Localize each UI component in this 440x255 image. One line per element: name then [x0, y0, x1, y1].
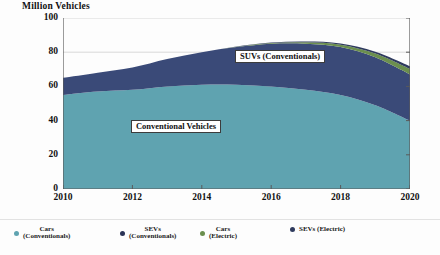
area-series-0 — [63, 84, 410, 189]
y-axis-tick-labels: 100806040200 — [14, 18, 58, 189]
stacked-area-plot — [63, 18, 410, 189]
y-tick-40: 40 — [49, 116, 59, 126]
x-tick-2010: 2010 — [54, 192, 73, 202]
x-axis-tick-labels: 201020122014201620182020 — [63, 192, 410, 208]
y-tick-80: 80 — [49, 47, 59, 57]
chart-legend: Cars (Conventionals)SEVs (Conventionals)… — [0, 224, 440, 250]
y-tick-100: 100 — [44, 13, 58, 23]
legend-item-1[interactable]: SEVs (Conventionals) — [120, 226, 176, 241]
annotation-conventional-vehicles: Conventional Vehicles — [131, 120, 221, 133]
x-tick-2014: 2014 — [192, 192, 211, 202]
legend-item-0[interactable]: Cars (Conventionals) — [14, 226, 70, 241]
legend-item-3[interactable]: SEVs (Electric) — [290, 226, 345, 233]
legend-marker-icon-1 — [120, 231, 125, 236]
legend-label-1: SEVs (Conventionals) — [129, 226, 176, 241]
legend-label-3: SEVs (Electric) — [299, 226, 345, 233]
legend-divider — [0, 219, 440, 220]
y-tick-60: 60 — [49, 81, 59, 91]
annotation-suvs-conventionals: SUVs (Conventionals) — [235, 50, 325, 63]
x-tick-2016: 2016 — [262, 192, 281, 202]
x-tick-2020: 2020 — [401, 192, 420, 202]
y-tick-20: 20 — [49, 150, 59, 160]
legend-label-2: Cars (Electric) — [209, 226, 237, 241]
x-tick-2012: 2012 — [123, 192, 142, 202]
x-tick-2018: 2018 — [331, 192, 350, 202]
legend-marker-icon-3 — [290, 227, 295, 232]
legend-marker-icon-0 — [14, 231, 19, 236]
plot-area — [63, 18, 410, 189]
y-axis-title: Million Vehicles — [22, 1, 90, 11]
chart-container: Million Vehicles 100806040200 2010201220… — [0, 0, 440, 255]
legend-label-0: Cars (Conventionals) — [23, 226, 70, 241]
legend-marker-icon-2 — [200, 231, 205, 236]
legend-item-2[interactable]: Cars (Electric) — [200, 226, 237, 241]
